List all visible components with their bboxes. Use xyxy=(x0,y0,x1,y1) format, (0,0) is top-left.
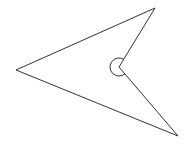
arrowhead-quadrilateral xyxy=(16,8,178,136)
diagram-canvas xyxy=(0,0,189,147)
